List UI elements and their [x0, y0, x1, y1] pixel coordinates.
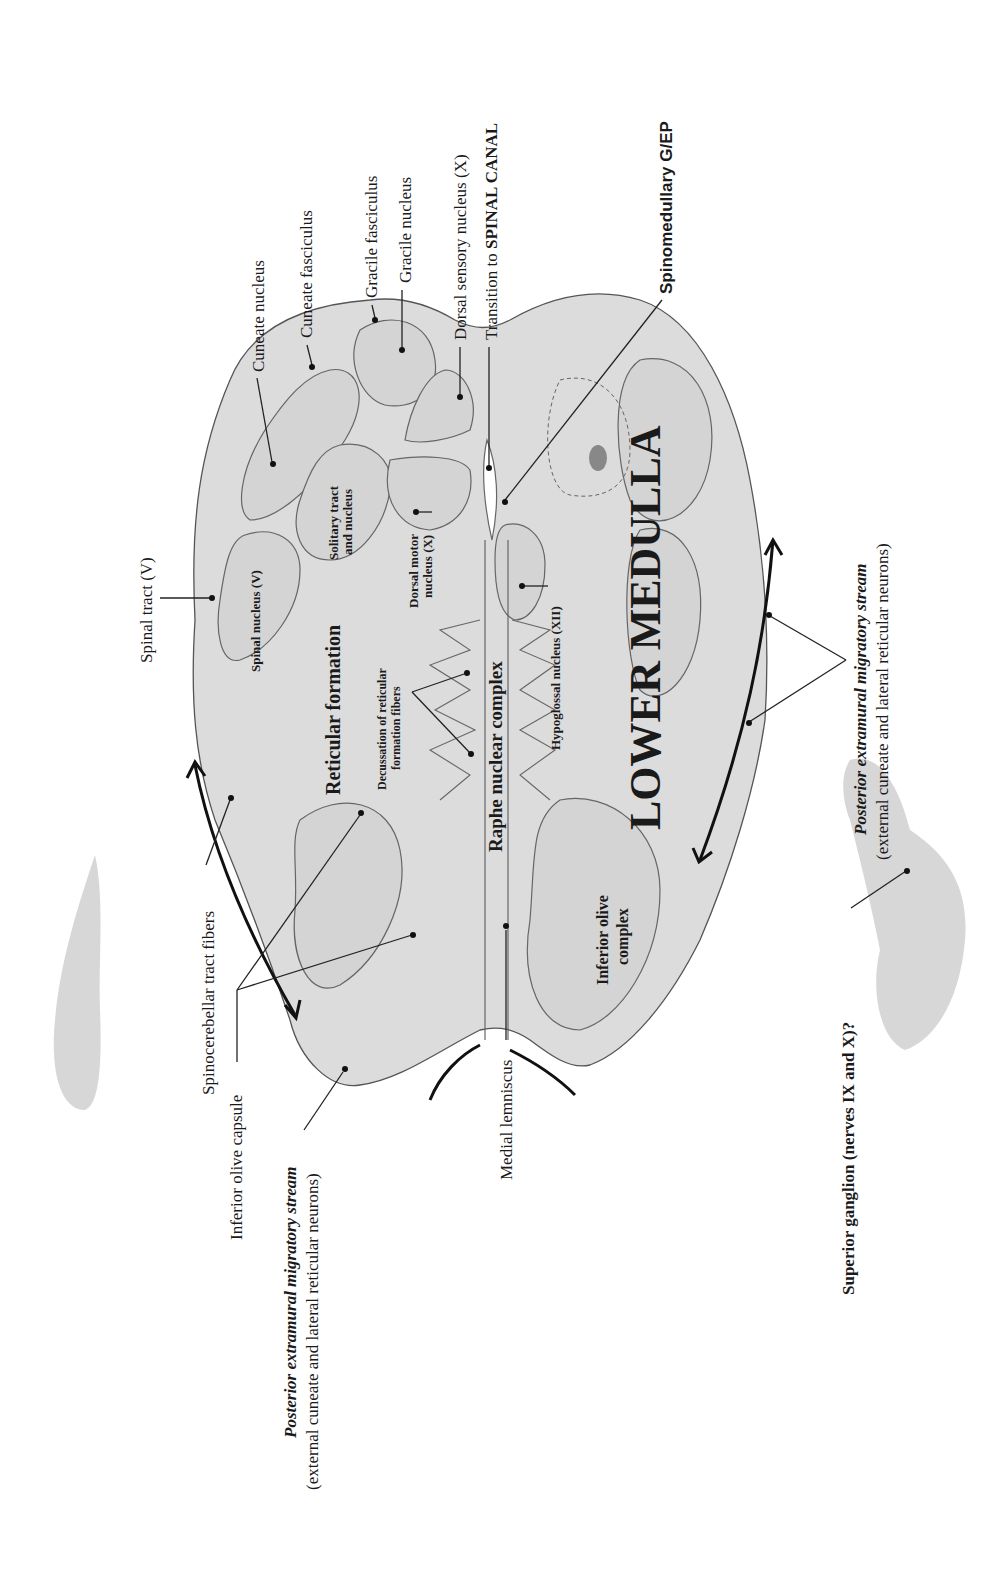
label-solitary-1: Solitary tract	[326, 485, 341, 560]
dark-spot	[589, 445, 607, 471]
label-dorsal-motor-1: Dorsal motor	[406, 534, 421, 608]
label-gracile-fasciculus: Gracile fasciculus	[362, 176, 381, 298]
label-spinal-tract: Spinal tract (V)	[137, 557, 156, 663]
label-dorsal-motor-2: nucleus (X)	[420, 535, 435, 598]
label-decussation-1: Decussation of reticular	[375, 668, 389, 790]
label-solitary-2: and nucleus	[340, 489, 355, 555]
label-inferior-olive-capsule: Inferior olive capsule	[227, 1095, 246, 1240]
label-decussation-2: formation fibers	[389, 686, 403, 770]
label-cuneate-fasciculus: Cuneate fasciculus	[297, 210, 316, 338]
transition-prefix: Transition to	[482, 249, 501, 340]
label-pems-left: Posterior extramural migratory stream	[281, 1166, 300, 1439]
label-spinocerebellar: Spinocerebellar tract fibers	[199, 911, 218, 1095]
label-cuneate-nucleus: Cuneate nucleus	[249, 260, 268, 372]
label-pems-right-sub: (external cuneate and lateral reticular …	[873, 543, 892, 860]
label-inferior-olive-2: complex	[614, 908, 632, 965]
label-superior-ganglion: Superior ganglion (nerves IX and X)?	[839, 1022, 858, 1295]
label-pems-left-sub: (external cuneate and lateral reticular …	[303, 1173, 322, 1490]
label-transition: Transition to SPINAL CANAL	[482, 123, 501, 340]
label-spinal-nucleus: Spinal nucleus (V)	[248, 570, 263, 672]
label-raphe: Raphe nuclear complex	[485, 661, 506, 852]
label-reticular-formation: Reticular formation	[322, 625, 344, 795]
label-gracile-nucleus: Gracile nucleus	[396, 177, 415, 283]
transition-bold: SPINAL CANAL	[482, 123, 501, 249]
medulla-diagram: LOWER MEDULLA Solitary tract and nucleus…	[0, 0, 1007, 1574]
region-title: LOWER MEDULLA	[621, 425, 670, 830]
label-hypoglossal: Hypoglossal nucleus (XII)	[548, 606, 563, 750]
label-pems-right: Posterior extramural migratory stream	[851, 563, 870, 836]
label-inferior-olive-1: Inferior olive	[594, 895, 611, 985]
label-medial-lemniscus: Medial lemniscus	[497, 1060, 516, 1180]
left-ganglion-fragment	[54, 855, 101, 1110]
label-spinomedullary: Spinomedullary G/EP	[657, 121, 676, 294]
label-dorsal-sensory: Dorsal sensory nucleus (X)	[451, 154, 470, 340]
